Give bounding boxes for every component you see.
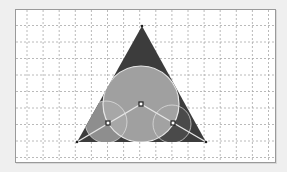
vertex-bottom-left[interactable] — [76, 141, 79, 144]
right-point[interactable] — [171, 121, 175, 125]
vertex-apex[interactable] — [141, 25, 144, 28]
center-point[interactable] — [139, 102, 143, 106]
left-point[interactable] — [106, 121, 110, 125]
geometry-diagram — [0, 0, 287, 172]
vertex-bottom-right[interactable] — [205, 141, 208, 144]
